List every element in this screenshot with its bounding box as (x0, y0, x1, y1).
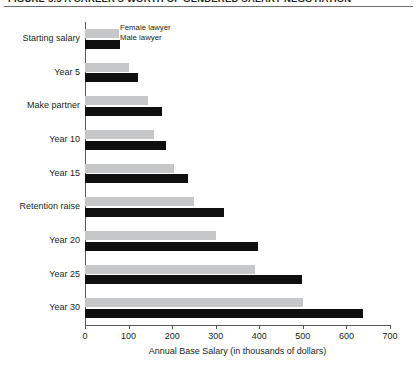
x-tick-label: 700 (382, 331, 397, 341)
x-tick-mark (346, 325, 347, 329)
legend-label: Female lawyer (120, 23, 171, 32)
bar-female (85, 130, 154, 139)
bar-male (85, 208, 224, 217)
caption-divider (4, 6, 413, 7)
y-axis-category-label: Retention raise (0, 201, 80, 211)
x-tick-mark (172, 325, 173, 329)
x-axis-title: Annual Base Salary (in thousands of doll… (85, 346, 390, 356)
bar-female (85, 231, 216, 240)
x-tick-label: 600 (339, 331, 354, 341)
figure-caption-text: FIGURE 5.5 A CAREER'S WORTH OF GENDERED … (8, 0, 351, 4)
chart-legend: Female lawyerMale lawyer (120, 23, 171, 43)
bar-male (85, 242, 258, 251)
legend-item: Female lawyer (120, 23, 171, 33)
legend-label: Male lawyer (120, 33, 162, 42)
bar-female (85, 29, 119, 38)
bar-female (85, 197, 194, 206)
y-axis-category-label: Year 30 (0, 302, 80, 312)
bar-male (85, 73, 138, 82)
x-axis-line (85, 325, 390, 326)
bar-female (85, 298, 303, 307)
y-axis-category-label: Make partner (0, 100, 80, 110)
bar-male (85, 141, 166, 150)
x-tick-label: 300 (208, 331, 223, 341)
x-tick-mark (303, 325, 304, 329)
x-tick-label: 100 (121, 331, 136, 341)
y-axis-category-label: Year 25 (0, 269, 80, 279)
legend-item: Male lawyer (120, 33, 171, 43)
bar-chart: 0100200300400500600700 Starting salaryYe… (0, 14, 417, 373)
y-axis-category-label: Year 20 (0, 235, 80, 245)
x-tick-mark (390, 325, 391, 329)
bar-male (85, 309, 363, 318)
y-axis-category-label: Year 15 (0, 168, 80, 178)
x-tick-mark (259, 325, 260, 329)
bar-female (85, 63, 129, 72)
y-axis-category-label: Year 5 (0, 67, 80, 77)
bar-male (85, 174, 188, 183)
bar-male (85, 275, 302, 284)
x-tick-mark (216, 325, 217, 329)
x-tick-label: 0 (82, 331, 87, 341)
x-tick-mark (129, 325, 130, 329)
y-axis-category-label: Starting salary (0, 33, 80, 43)
x-tick-mark (85, 325, 86, 329)
x-tick-label: 400 (252, 331, 267, 341)
bar-female (85, 265, 255, 274)
x-tick-label: 500 (295, 331, 310, 341)
bar-male (85, 107, 162, 116)
bar-female (85, 96, 148, 105)
bar-male (85, 40, 120, 49)
y-axis-category-label: Year 10 (0, 134, 80, 144)
x-tick-label: 200 (165, 331, 180, 341)
bar-female (85, 164, 174, 173)
